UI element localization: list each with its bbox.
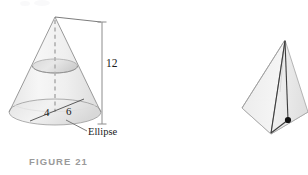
pyramid-diagram xyxy=(154,0,308,155)
pyramid-base-center-dot xyxy=(285,117,291,123)
pyramid-body xyxy=(242,40,308,134)
cone-radius-left-label: 4 xyxy=(44,106,50,118)
figure-21-caption: FIGURE 21 xyxy=(29,156,88,167)
cone-cross-section-label: Ellipse xyxy=(88,126,117,137)
cone-radius-right-label: 6 xyxy=(66,105,72,117)
figure-21-panel: 12 4 6 Ellipse FIGURE 21 xyxy=(0,0,154,175)
cone-diagram xyxy=(0,0,154,155)
figure-22-panel: s FIGURE 22 xyxy=(154,0,308,175)
cone-height-label: 12 xyxy=(106,57,118,69)
height-leader-line-top xyxy=(55,17,101,22)
